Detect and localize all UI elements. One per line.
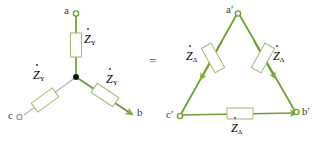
node-label-a: a	[64, 5, 69, 16]
impedance-label-ab-delta: ZΔ	[273, 49, 284, 64]
node-label-c-prime: c′	[166, 109, 173, 120]
branch-a-c-delta	[181, 14, 237, 114]
impedance-subscript: Y	[91, 39, 96, 47]
impedance-label-ay: ZY	[84, 32, 96, 47]
branch-c-neutral	[24, 77, 76, 115]
star-network	[17, 11, 130, 120]
impedance-subscript: Y	[113, 79, 118, 87]
terminal-a-prime	[235, 11, 240, 16]
impedance-symbol: Z	[106, 72, 113, 86]
equals-sign: =	[149, 53, 156, 69]
impedance-subscript: Δ	[193, 56, 198, 64]
diagram-canvas: = a b c ZY ZY ZY a′ b′ c′ ZΔ ZΔ ZΔ	[0, 0, 316, 144]
impedance-box-cy	[31, 88, 58, 112]
impedance-symbol: Z	[33, 68, 40, 82]
prime-mark: ′	[308, 105, 310, 117]
terminal-c-prime	[177, 113, 182, 118]
prime-mark: ′	[171, 108, 173, 120]
node-label-a-prime: a′	[226, 4, 233, 15]
impedance-symbol: Z	[273, 49, 280, 63]
terminal-a	[73, 11, 78, 16]
impedance-box-cb-delta	[227, 108, 253, 119]
impedance-box-ac-delta	[201, 43, 224, 73]
impedance-subscript: Δ	[280, 56, 285, 64]
node-label-c: c	[8, 110, 13, 121]
node-label-b: b	[137, 107, 143, 118]
branch-a-b-delta	[239, 14, 296, 113]
branch-a-neutral	[71, 14, 82, 77]
impedance-label-ac-delta: ZΔ	[186, 49, 197, 64]
terminal-b-prime	[294, 109, 299, 114]
impedance-label-cb-delta: ZΔ	[231, 121, 242, 136]
impedance-label-by: ZY	[106, 72, 118, 87]
impedance-subscript: Y	[40, 75, 45, 83]
impedance-box-ay	[71, 33, 82, 57]
node-label-b-prime: b′	[302, 106, 310, 117]
impedance-symbol: Z	[186, 49, 193, 63]
circuit-vector-layer	[0, 0, 316, 144]
branch-c-b-delta	[181, 108, 294, 119]
terminal-c	[17, 114, 22, 119]
prime-mark: ′	[231, 3, 233, 15]
neutral-node	[73, 74, 79, 80]
impedance-symbol: Z	[231, 121, 238, 135]
impedance-label-cy: ZY	[33, 68, 45, 83]
impedance-subscript: Δ	[238, 128, 243, 136]
delta-network	[177, 11, 299, 119]
impedance-symbol: Z	[84, 32, 91, 46]
branch-b-neutral	[76, 77, 130, 113]
